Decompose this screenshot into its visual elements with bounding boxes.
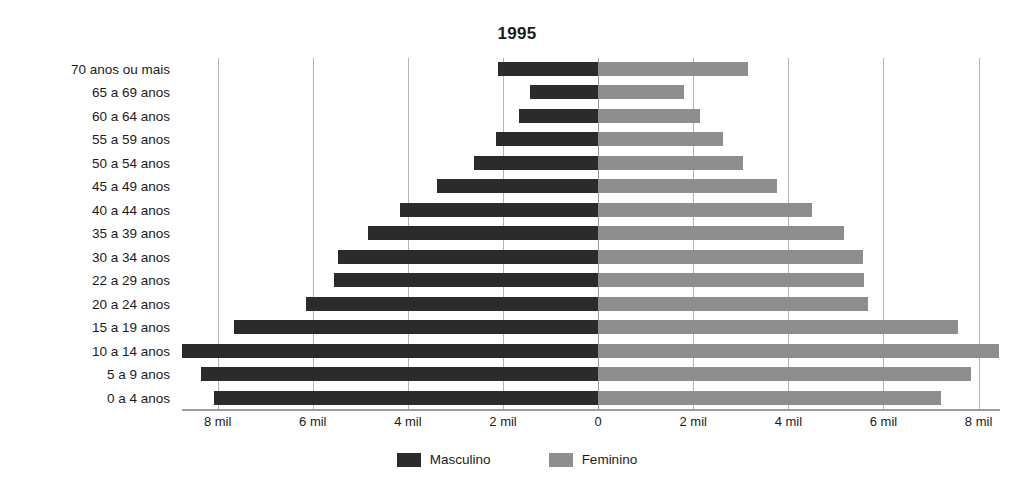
category-label: 22 a 29 anos [0,269,170,292]
bar-female [598,132,723,146]
x-tick-label: 2 mil [489,414,516,429]
plot-area [182,58,1000,410]
category-label: 55 a 59 anos [0,128,170,151]
bar-male [201,367,599,381]
bar-female [598,391,940,405]
x-tick-label: 4 mil [775,414,802,429]
category-label: 40 a 44 anos [0,199,170,222]
bar-female [598,367,971,381]
x-tick-label: 6 mil [299,414,326,429]
pyramid-row [182,199,1000,222]
x-tick-label: 2 mil [680,414,707,429]
pyramid-row [182,363,1000,386]
pyramid-row [182,152,1000,175]
pyramid-row [182,175,1000,198]
pyramid-row [182,246,1000,269]
pyramid-row [182,128,1000,151]
bar-male [496,132,598,146]
bar-male [214,391,598,405]
population-pyramid-chart: 1995 70 anos ou mais65 a 69 anos60 a 64 … [0,0,1034,492]
bar-male [368,226,598,240]
x-tick-label: 0 [595,414,602,429]
category-label: 30 a 34 anos [0,246,170,269]
bar-male [334,273,598,287]
category-label: 10 a 14 anos [0,340,170,363]
bar-female [598,203,812,217]
bar-female [598,297,868,311]
category-label: 50 a 54 anos [0,152,170,175]
bar-female [598,344,998,358]
bar-male [234,320,598,334]
bar-female [598,179,777,193]
x-tick-label: 4 mil [394,414,421,429]
bar-male [474,156,598,170]
pyramid-row [182,81,1000,104]
pyramid-row [182,269,1000,292]
bar-male [306,297,598,311]
pyramid-row [182,316,1000,339]
bar-female [598,62,748,76]
pyramid-row [182,293,1000,316]
pyramid-row [182,58,1000,81]
x-axis-tick-labels: 8 mil6 mil4 mil2 mil02 mil4 mil6 mil8 mi… [0,414,1034,438]
bar-male [400,203,598,217]
x-axis-baseline [182,409,1000,411]
bar-male [530,85,598,99]
category-axis-labels: 70 anos ou mais65 a 69 anos60 a 64 anos5… [0,58,170,410]
bar-female [598,109,700,123]
legend-label: Feminino [582,452,638,467]
chart-legend: MasculinoFeminino [0,452,1034,467]
x-tick-label: 6 mil [870,414,897,429]
pyramid-row [182,105,1000,128]
category-label: 15 a 19 anos [0,316,170,339]
category-label: 60 a 64 anos [0,105,170,128]
bar-male [498,62,598,76]
bar-female [598,320,958,334]
legend-swatch-male [397,453,421,467]
category-label: 45 a 49 anos [0,175,170,198]
x-tick-label: 8 mil [204,414,231,429]
legend-item: Masculino [397,452,491,467]
legend-item: Feminino [549,452,638,467]
bar-male [519,109,598,123]
bar-female [598,273,864,287]
bar-female [598,156,743,170]
category-label: 20 a 24 anos [0,293,170,316]
bar-male [182,344,598,358]
category-label: 5 a 9 anos [0,363,170,386]
pyramid-row [182,340,1000,363]
bar-female [598,226,843,240]
bar-female [598,85,684,99]
legend-swatch-female [549,453,573,467]
x-tick-label: 8 mil [965,414,992,429]
legend-label: Masculino [430,452,491,467]
pyramid-row [182,387,1000,410]
bar-male [338,250,598,264]
chart-title: 1995 [0,24,1034,44]
bar-male [437,179,598,193]
category-label: 70 anos ou mais [0,58,170,81]
bar-female [598,250,862,264]
category-label: 35 a 39 anos [0,222,170,245]
category-label: 65 a 69 anos [0,81,170,104]
pyramid-row [182,222,1000,245]
category-label: 0 a 4 anos [0,387,170,410]
